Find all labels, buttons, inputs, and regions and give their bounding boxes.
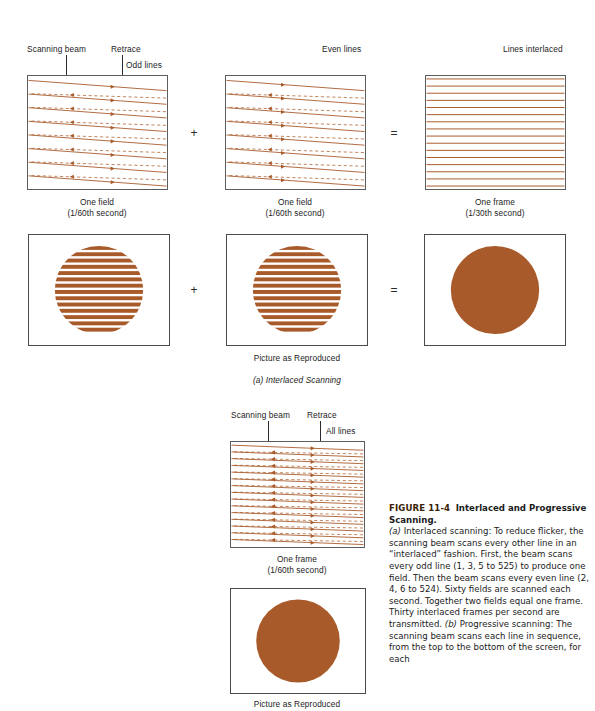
caption-even-field-1: One field: [278, 197, 312, 207]
caption-odd-field-1: One field: [80, 197, 114, 207]
caption-text-a: Interlaced scanning: To reduce flicker, …: [389, 526, 589, 629]
scan-pattern-progressive: [231, 442, 364, 547]
caption-odd-field-2: (1/60th second): [67, 208, 126, 218]
operator-plus-row2: +: [190, 283, 197, 297]
label-even-lines: Even lines: [322, 44, 361, 54]
picture-even-striped: [226, 234, 368, 346]
operator-equals-row2: =: [390, 283, 397, 297]
caption-picture-as-reproduced-a: Picture as Reproduced: [254, 353, 341, 363]
picture-odd-striped: [28, 234, 170, 346]
label-retrace-b: Retrace: [307, 410, 337, 420]
caption-marker-a: (a): [389, 526, 401, 536]
screen-interlaced-frame: [425, 75, 566, 190]
solid-circle-b: [231, 589, 365, 693]
screen-progressive-frame: [230, 441, 365, 548]
figure-canvas: Scanning beam Retrace Odd lines One fiel…: [0, 0, 595, 711]
label-odd-lines: Odd lines: [126, 60, 162, 70]
screen-odd-field: [27, 75, 168, 190]
label-scanning-beam-b: Scanning beam: [231, 410, 290, 420]
label-all-lines: All lines: [326, 426, 356, 436]
label-scanning-beam-a: Scanning beam: [27, 44, 86, 54]
label-lines-interlaced: Lines interlaced: [503, 44, 563, 54]
figure-number: FIGURE 11-4: [389, 503, 450, 513]
figure-caption-heading: FIGURE 11-4 Interlaced and Progressive S…: [389, 503, 589, 526]
leader-scanning-beam-b: [268, 421, 269, 442]
picture-progressive-solid: [230, 588, 366, 694]
caption-interlaced-frame-2: (1/30th second): [465, 208, 524, 218]
label-retrace-a: Retrace: [111, 44, 141, 54]
leader-retrace-b: [320, 421, 321, 442]
scan-pattern-interlaced: [426, 76, 565, 189]
caption-marker-b: (b): [445, 619, 457, 629]
operator-equals-row1: =: [390, 126, 397, 140]
solid-circle-a: [425, 235, 565, 345]
figure-caption-block: FIGURE 11-4 Interlaced and Progressive S…: [389, 503, 589, 665]
caption-part-a: (a) Interlaced Scanning: [253, 375, 341, 385]
caption-picture-as-reproduced-b: Picture as Reproduced: [254, 699, 341, 709]
striped-circle-odd: [29, 235, 169, 345]
picture-solid-circle: [424, 234, 566, 346]
caption-interlaced-frame-1: One frame: [475, 197, 515, 207]
striped-circle-even: [227, 235, 367, 345]
caption-progressive-frame-2: (1/60th second): [267, 565, 326, 575]
screen-even-field: [225, 75, 366, 190]
operator-plus-row1: +: [190, 126, 197, 140]
scan-pattern-odd: [28, 76, 167, 189]
scan-pattern-even: [226, 76, 365, 189]
caption-even-field-2: (1/60th second): [265, 208, 324, 218]
figure-caption-body: (a) Interlaced scanning: To reduce flick…: [389, 526, 589, 665]
caption-progressive-frame-1: One frame: [277, 554, 317, 564]
